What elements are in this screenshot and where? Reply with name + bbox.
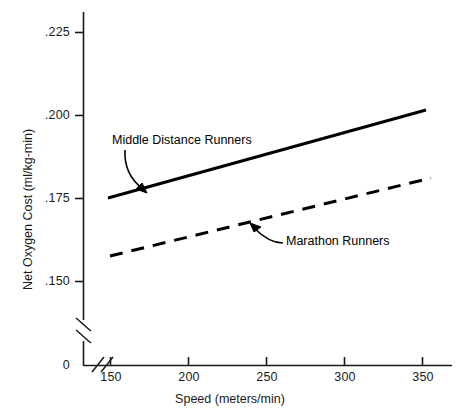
x-axis-title: Speed (meters/min) <box>0 392 460 406</box>
annotation-arrow-marathon <box>254 228 283 243</box>
x-tick-label-250: 250 <box>242 370 292 384</box>
y-tick-label-zero: 0 <box>28 358 70 372</box>
series-line-middle-distance <box>108 110 426 198</box>
chart-plot-area <box>0 0 460 414</box>
x-tick-label-350: 350 <box>398 370 448 384</box>
annotation-arrowhead-marathon <box>250 223 261 232</box>
series-label-middle-distance: Middle Distance Runners <box>112 133 252 147</box>
annotation-arrow-middle-distance <box>125 150 143 189</box>
chart-figure: .225 .200 .175 .150 0 150 200 250 300 35… <box>0 0 460 414</box>
x-tick-label-150: 150 <box>86 370 136 384</box>
y-tick-label-200: .200 <box>28 108 70 122</box>
x-tick-label-300: 300 <box>320 370 370 384</box>
series-label-marathon: Marathon Runners <box>286 234 390 248</box>
x-tick-label-200: 200 <box>164 370 214 384</box>
y-tick-label-225: .225 <box>28 25 70 39</box>
y-axis-title: Net Oxygen Cost (ml/kg-min) <box>21 129 35 290</box>
